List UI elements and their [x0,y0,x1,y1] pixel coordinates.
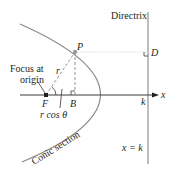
focus-label-line1: Focus at [10,63,44,74]
rcos-pointer [60,89,62,108]
theta-arc [52,87,56,95]
directrix-label: Directrix [111,10,147,21]
focus-f-label: F [41,98,49,109]
focus-dot [44,93,48,97]
segment-r-label: r [56,65,60,76]
conic-section-label: Conic section [29,128,81,166]
directrix-equation-label: x = k [121,142,143,153]
point-b-label: B [70,98,76,109]
point-p-label: P [76,41,83,52]
r-cos-theta-label: r cos θ [40,109,67,120]
k-tick-label: k [141,96,146,107]
segment-r [46,52,75,95]
conic-diagram: Directrix P D Focus at origin r F B x k … [0,0,182,179]
point-d-label: D [150,47,159,58]
x-axis-arrow-icon [152,93,159,98]
right-angle-b [71,91,75,95]
focus-label-line2: origin [20,74,44,85]
x-axis-label: x [160,89,166,100]
